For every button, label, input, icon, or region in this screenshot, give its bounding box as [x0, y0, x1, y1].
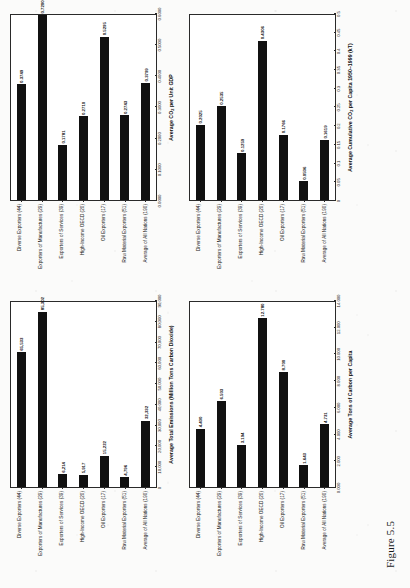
bar: 0.2710	[79, 116, 88, 200]
category-tick-mark	[21, 200, 22, 203]
x-tick-label: 6.000	[336, 403, 341, 414]
category-label: High-Income OECD (20)	[260, 491, 265, 542]
x-tick-label: 0.5	[336, 11, 341, 17]
bar: 5,917	[79, 475, 88, 487]
bar-row: 3.194	[237, 302, 246, 487]
bar-row: 0.5295	[100, 15, 109, 200]
bar-value-label: 8.700	[281, 360, 286, 371]
plot-area-tons-carbon-per-capita: 4.4006.5033.19412.7808.7001.6434.731	[189, 301, 336, 488]
bar-row: 4.731	[320, 302, 329, 487]
chart-cumulative-co2-per-capita: Diverse Exporters (44)Exporters of Manuf…	[189, 14, 358, 287]
category-tick-mark	[21, 487, 22, 490]
bar-row: 85,302	[38, 302, 47, 487]
category-label: High-Income OECD (20)	[260, 204, 265, 255]
x-tick-label: 0.15	[336, 141, 341, 149]
category-label: Oil Exporters (17)	[102, 204, 107, 241]
category-label: Oil Exporters (17)	[102, 491, 107, 528]
category-tick-mark	[42, 200, 43, 203]
x-axis-ticks: 0.0002.0004.0006.0008.00010.00012.00014.…	[336, 301, 347, 488]
bar-row: 65,533	[17, 302, 26, 487]
category-tick-mark	[283, 200, 284, 203]
bar: 4.731	[320, 424, 329, 487]
bar-row: 0.3749	[17, 15, 26, 200]
x-tick-label: 20,000	[157, 440, 162, 453]
category-tick-mark	[262, 200, 263, 203]
x-tick-label: 0.6000	[157, 8, 162, 21]
x-tick-label: 0	[157, 487, 162, 489]
chart-total-emissions: Diverse Exporters (44)Exporters of Manuf…	[10, 301, 179, 574]
x-axis-title-cumulative-co2-per-capita: Average Cumulative CO2 per Capita 1950–1…	[347, 14, 358, 201]
category-label: Exporters of Services (39)	[60, 204, 65, 258]
bar-row: 32,332	[141, 302, 150, 487]
bar-row: 0.2535	[217, 15, 226, 200]
category-label: Diverse Exporters (44)	[197, 204, 202, 251]
x-tick-label: 0.1	[336, 161, 341, 167]
category-tick-mark	[283, 487, 284, 490]
category-tick-mark	[241, 487, 242, 490]
x-tick-label: 0.25	[336, 103, 341, 111]
bar: 0.2743	[120, 115, 129, 200]
bar-row: 0.1766	[279, 15, 288, 200]
category-axis: Diverse Exporters (44)Exporters of Manuf…	[10, 201, 157, 287]
x-tick-label: 80,000	[157, 315, 162, 328]
bar-value-label: 0.2025	[198, 110, 203, 123]
bar-row: 1.643	[299, 302, 308, 487]
bar: 1.643	[299, 465, 308, 487]
bar: 4,796	[120, 477, 129, 487]
bar: 6.503	[217, 401, 226, 487]
bar-value-label: 6.503	[219, 389, 224, 400]
x-tick-label: 0	[336, 200, 341, 202]
plot-area-total-emissions: 65,53385,3026,2145,91715,2224,79632,332	[10, 301, 157, 488]
bar: 0.2025	[196, 125, 205, 200]
x-tick-label: 70,000	[157, 336, 162, 349]
bar-value-label: 0.2710	[81, 102, 86, 115]
bar-row: 0.0506	[299, 15, 308, 200]
category-label: Exporters of Services (39)	[239, 204, 244, 258]
category-label: Exporters of Manufactures (29)	[218, 204, 223, 269]
bar-value-label: 0.1781	[60, 130, 65, 143]
bar-row: 5,917	[79, 302, 88, 487]
x-tick-label: 10.000	[336, 348, 341, 361]
bar: 0.1619	[320, 140, 329, 200]
bar-value-label: 0.2743	[122, 101, 127, 114]
category-label: Average of All Nations (190)	[323, 491, 328, 550]
x-tick-label: 0.4	[336, 48, 341, 54]
category-tick-mark	[62, 200, 63, 203]
category-label: Average of All Nations (190)	[323, 204, 328, 263]
bar-row: 6.503	[217, 302, 226, 487]
bar-row: 4.400	[196, 302, 205, 487]
bar-row: 0.4306	[258, 15, 267, 200]
bar-value-label: 5,917	[81, 463, 86, 474]
figure-caption: Figure 5.5	[384, 521, 396, 568]
bar-value-label: 32,332	[143, 406, 148, 419]
x-tick-label: 0.4000	[157, 70, 162, 83]
x-tick-label: 50,000	[157, 378, 162, 391]
x-axis-title-co2-per-unit-gdp: Average CO2 per Unit GDP	[168, 14, 179, 201]
bar: 0.4306	[258, 41, 267, 200]
category-label: Diverse Exporters (44)	[18, 491, 23, 538]
x-tick-label: 60,000	[157, 357, 162, 370]
bar-value-label: 0.3749	[19, 70, 24, 83]
bar-row: 12.780	[258, 302, 267, 487]
category-label: Oil Exporters (17)	[281, 204, 286, 241]
category-tick-mark	[104, 487, 105, 490]
category-label: Oil Exporters (17)	[281, 491, 286, 528]
category-label: High-Income OECD (20)	[81, 491, 86, 542]
category-axis: Diverse Exporters (44)Exporters of Manuf…	[189, 201, 336, 287]
bar-row: 0.1781	[58, 15, 67, 200]
bar: 8.700	[279, 372, 288, 487]
bar-value-label: 1.643	[301, 453, 306, 464]
x-axis-title-total-emissions: Average Total Emissions (Million Tons Ca…	[168, 301, 179, 488]
scanned-figure-page: Diverse Exporters (44)Exporters of Manuf…	[0, 0, 410, 588]
bar-value-label: 0.4306	[260, 26, 265, 39]
bar: 12.780	[258, 318, 267, 487]
category-tick-mark	[221, 487, 222, 490]
category-tick-mark	[324, 200, 325, 203]
category-axis: Diverse Exporters (44)Exporters of Manuf…	[189, 488, 336, 574]
bar: 65,533	[17, 352, 26, 487]
category-tick-mark	[304, 487, 305, 490]
x-tick-label: 0.5000	[157, 39, 162, 52]
bar: 4.400	[196, 429, 205, 487]
bar: 0.5295	[100, 37, 109, 200]
category-label: Raw Material Exporters (51)	[302, 491, 307, 550]
